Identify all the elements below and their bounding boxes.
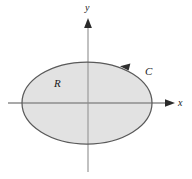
diagram-svg: [0, 0, 192, 179]
curve-label: C: [145, 66, 152, 77]
arrow-right-icon: [165, 99, 175, 107]
arrow-up-icon: [84, 18, 92, 28]
y-axis-label: y: [85, 3, 89, 13]
region-label: R: [54, 78, 61, 89]
x-axis-label: x: [178, 98, 182, 108]
figure-canvas: y x R C: [0, 0, 192, 179]
